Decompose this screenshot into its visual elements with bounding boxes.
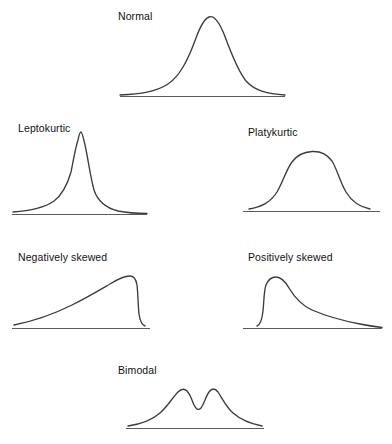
curve-normal xyxy=(120,17,285,95)
curve-leptokurtic xyxy=(13,132,147,214)
label-negatively-skewed: Negatively skewed xyxy=(18,251,107,263)
panel-negatively-skewed xyxy=(12,276,150,329)
label-positively-skewed: Positively skewed xyxy=(248,251,333,263)
panel-leptokurtic xyxy=(12,132,147,215)
curve-positively-skewed xyxy=(257,277,382,328)
curve-bimodal xyxy=(128,389,262,426)
panel-bimodal xyxy=(126,389,264,429)
curve-platykurtic xyxy=(249,151,370,209)
curve-negatively-skewed xyxy=(14,276,145,326)
panel-platykurtic xyxy=(243,151,380,211)
distribution-shapes-figure: Normal Leptokurtic Platykurtic Negativel… xyxy=(0,0,392,444)
figure-canvas xyxy=(0,0,392,444)
label-normal: Normal xyxy=(118,10,152,22)
label-bimodal: Bimodal xyxy=(118,364,157,376)
panel-normal xyxy=(120,17,285,97)
label-leptokurtic: Leptokurtic xyxy=(18,122,70,134)
panel-positively-skewed xyxy=(243,277,382,329)
label-platykurtic: Platykurtic xyxy=(248,126,298,138)
